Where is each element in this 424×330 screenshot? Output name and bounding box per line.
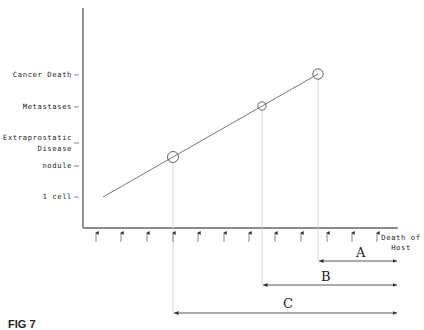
label-death-of-host-line1: Death of <box>377 233 424 243</box>
label-nodule: nodule <box>42 160 72 171</box>
label-cancer-death: Cancer Death <box>13 69 72 80</box>
interval-label-c: C <box>283 296 293 311</box>
time-tick-arrows <box>96 233 377 242</box>
figure-caption: FIG 7 <box>8 318 36 330</box>
growth-line <box>103 74 318 197</box>
label-disease: Disease <box>38 143 73 154</box>
label-death-of-host: Death of Host <box>377 233 424 253</box>
label-death-of-host-line2: Host <box>377 243 424 253</box>
interval-label-b: B <box>321 269 331 284</box>
label-one-cell: 1 cell <box>42 191 72 202</box>
interval-label-a: A <box>356 245 365 260</box>
label-extraprostatic: Extraprostatic <box>3 132 72 143</box>
y-tick-marks <box>74 75 79 197</box>
label-metastases: Metastases <box>23 101 72 112</box>
guide-lines <box>173 79 318 313</box>
